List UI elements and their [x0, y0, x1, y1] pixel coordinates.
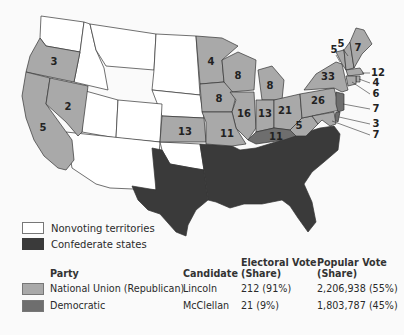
row-electoral: 21 (9%): [241, 300, 279, 312]
ev-vermont: 5: [331, 44, 338, 55]
national-union-swatch: [22, 283, 44, 295]
row-popular: 2,206,938 (55%): [317, 283, 398, 295]
ev-illinois: 16: [237, 108, 251, 119]
header-party: Party: [50, 268, 79, 280]
ev-missouri: 11: [220, 128, 234, 139]
ev-oregon: 3: [51, 56, 58, 67]
ev-new-jersey: 7: [373, 103, 380, 114]
territory-new-mexico-arizona: [66, 132, 160, 190]
ev-maryland: 7: [373, 129, 380, 140]
row-party: National Union (Republican): [50, 283, 184, 295]
header-electoral-line2: (Share): [241, 268, 281, 280]
state-connecticut: [346, 76, 356, 86]
row-party: Democratic: [50, 300, 105, 312]
ev-delaware: 3: [373, 118, 380, 129]
state-new-jersey: [336, 92, 344, 112]
democratic-swatch: [22, 300, 44, 312]
ev-new-york: 33: [321, 71, 335, 82]
territory-dakota: [152, 34, 200, 95]
ev-kansas: 13: [178, 126, 192, 137]
ev-rhode-island: 4: [373, 77, 380, 88]
territory-colorado: [116, 100, 162, 142]
ev-nevada: 2: [65, 101, 72, 112]
ev-new-hampshire: 5: [338, 38, 345, 49]
ev-kentucky: 11: [269, 131, 283, 142]
legend-confederate: Confederate states: [22, 238, 147, 250]
legend-nonvoting-label: Nonvoting territories: [51, 223, 155, 234]
header-candidate: Candidate: [183, 268, 238, 280]
ev-west-virginia: 5: [296, 120, 303, 131]
ev-connecticut: 6: [373, 88, 380, 99]
legend-confederate-label: Confederate states: [51, 239, 147, 250]
ev-michigan: 8: [267, 80, 274, 91]
ev-ohio: 21: [278, 105, 292, 116]
legend-nonvoting: Nonvoting territories: [22, 222, 155, 234]
territory-utah: [82, 90, 118, 138]
ev-california: 5: [40, 122, 47, 133]
ev-iowa: 8: [216, 93, 223, 104]
ev-pennsylvania: 26: [311, 95, 325, 106]
confederate-swatch: [22, 238, 44, 250]
row-popular: 1,803,787 (45%): [317, 300, 398, 312]
ev-wisconsin: 8: [235, 70, 242, 81]
header-popular-line2: (Share): [317, 268, 357, 280]
row-candidate: Lincoln: [183, 283, 217, 295]
ev-minnesota: 4: [208, 56, 215, 67]
ev-maine: 7: [355, 42, 362, 53]
ev-indiana: 13: [258, 108, 272, 119]
nonvoting-swatch: [22, 222, 44, 234]
row-candidate: McClellan: [183, 300, 229, 312]
election-map: 3 5 2 13 4 8 8 8 16 13 21 11 11 5 26 33 …: [0, 0, 404, 240]
row-electoral: 212 (91%): [241, 283, 291, 295]
